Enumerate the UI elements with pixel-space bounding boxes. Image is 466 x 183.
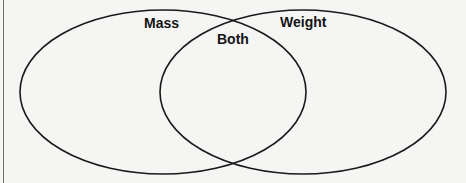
- weight-set-ellipse: [160, 10, 446, 174]
- both-label: Both: [217, 32, 249, 46]
- mass-label: Mass: [144, 16, 179, 30]
- weight-label: Weight: [280, 15, 326, 29]
- mass-set-ellipse: [20, 10, 306, 174]
- venn-ellipses: [0, 0, 466, 183]
- venn-diagram-canvas: Mass Both Weight: [0, 0, 466, 183]
